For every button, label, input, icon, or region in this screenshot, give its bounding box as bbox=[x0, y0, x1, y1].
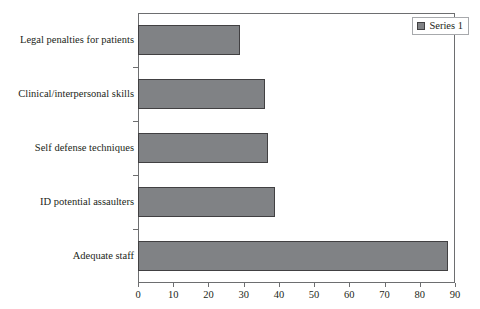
x-axis-tick bbox=[314, 283, 315, 287]
bar-3 bbox=[138, 133, 268, 163]
x-axis-tick bbox=[244, 283, 245, 287]
bar-5 bbox=[138, 241, 448, 271]
x-axis-tick bbox=[349, 283, 350, 287]
x-axis-tick-label: 20 bbox=[188, 289, 228, 301]
bar-rect bbox=[138, 79, 265, 109]
x-axis-tick-label: 60 bbox=[329, 289, 369, 301]
x-axis-tick-label: 80 bbox=[400, 289, 440, 301]
x-axis-tick-label: 10 bbox=[153, 289, 193, 301]
x-axis-tick-label: 70 bbox=[365, 289, 405, 301]
category-label: Legal penalties for patients bbox=[0, 34, 134, 46]
bar-4 bbox=[138, 187, 275, 217]
x-axis-tick bbox=[385, 283, 386, 287]
x-axis-tick-label: 30 bbox=[224, 289, 264, 301]
y-axis-tick bbox=[133, 121, 138, 122]
bar-1 bbox=[138, 25, 240, 55]
x-axis-tick bbox=[138, 283, 139, 287]
x-axis-tick-label: 0 bbox=[118, 289, 158, 301]
chart-legend: Series 1 bbox=[412, 17, 469, 35]
y-axis-tick bbox=[133, 229, 138, 230]
bar-rect bbox=[138, 133, 268, 163]
bar-rect bbox=[138, 187, 275, 217]
x-axis-tick-label: 90 bbox=[435, 289, 475, 301]
bar-rect bbox=[138, 241, 448, 271]
x-axis-tick-label: 40 bbox=[259, 289, 299, 301]
y-axis-tick bbox=[133, 175, 138, 176]
y-axis-tick bbox=[133, 67, 138, 68]
x-axis-tick bbox=[173, 283, 174, 287]
bar-chart: Legal penalties for patientsClinical/int… bbox=[0, 0, 480, 309]
category-label: Clinical/interpersonal skills bbox=[0, 88, 134, 100]
bar-rect bbox=[138, 25, 240, 55]
bar-2 bbox=[138, 79, 265, 109]
legend-swatch-icon bbox=[417, 22, 425, 30]
x-axis-tick bbox=[208, 283, 209, 287]
category-label: Self defense techniques bbox=[0, 142, 134, 154]
x-axis-tick bbox=[279, 283, 280, 287]
x-axis-tick bbox=[455, 283, 456, 287]
category-label: Adequate staff bbox=[0, 250, 134, 262]
legend-label: Series 1 bbox=[429, 20, 463, 32]
x-axis-tick-label: 50 bbox=[294, 289, 334, 301]
x-axis-tick bbox=[420, 283, 421, 287]
category-label: ID potential assaulters bbox=[0, 196, 134, 208]
